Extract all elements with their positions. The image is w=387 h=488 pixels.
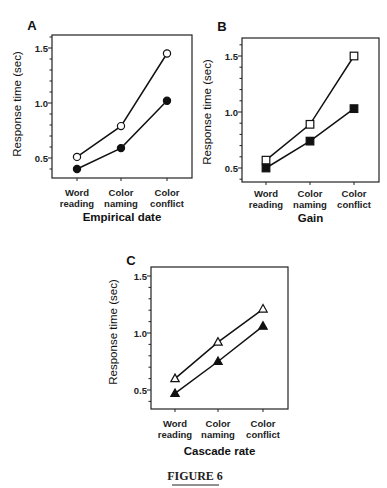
x-tick-label: Word — [254, 188, 278, 199]
figure-6: A0.51.01.5Response time (sec)Wordreading… — [0, 0, 387, 488]
x-tick-label: Color — [206, 418, 231, 429]
x-tick-label: reading — [249, 199, 284, 210]
panel-b: B0.51.01.5Response time (sec)Wordreading… — [201, 19, 379, 224]
data-point-open-triangle — [214, 338, 222, 346]
x-tick-label: naming — [104, 198, 138, 209]
data-point-filled-square — [350, 105, 358, 113]
y-tick-label: 1.5 — [134, 271, 148, 282]
figure-caption: FIGURE 6 — [167, 469, 223, 483]
x-tick-label: Word — [65, 187, 89, 198]
panel-c: C0.51.01.5Response time (sec)Wordreading… — [107, 253, 288, 457]
x-tick-label: Color — [251, 418, 276, 429]
y-axis-label: Response time (sec) — [201, 59, 213, 165]
x-tick-label: Word — [163, 418, 187, 429]
x-tick-label: reading — [158, 429, 193, 440]
data-point-filled-square — [306, 137, 314, 145]
x-tick-label: Color — [342, 188, 367, 199]
data-point-open-square — [350, 52, 358, 60]
x-tick-label: Color — [298, 188, 323, 199]
x-tick-label: Color — [155, 187, 180, 198]
x-tick-label: naming — [293, 199, 327, 210]
x-axis-title: Empirical date — [83, 211, 162, 223]
panel-label: B — [217, 19, 226, 34]
y-tick-label: 0.5 — [225, 163, 239, 174]
y-tick-label: 0.5 — [35, 153, 49, 164]
data-point-open-triangle — [259, 305, 267, 313]
y-axis-label: Response time (sec) — [107, 279, 119, 385]
y-tick-label: 0.5 — [134, 385, 148, 396]
y-axis-label: Response time (sec) — [11, 51, 23, 157]
plot-frame — [151, 267, 288, 409]
panel-label: A — [27, 18, 37, 33]
data-point-filled-triangle — [214, 357, 222, 365]
data-point-filled-circle — [117, 145, 124, 152]
x-tick-label: conflict — [337, 199, 372, 210]
data-point-open-square — [262, 156, 270, 164]
x-tick-label: naming — [201, 429, 235, 440]
x-tick-label: conflict — [150, 198, 185, 209]
data-point-filled-circle — [163, 97, 170, 104]
data-point-filled-triangle — [171, 389, 179, 397]
data-point-open-square — [306, 121, 314, 129]
x-axis-title: Gain — [298, 212, 324, 224]
data-point-open-circle — [117, 123, 124, 130]
panel-a: A0.51.01.5Response time (sec)Wordreading… — [11, 18, 192, 223]
data-point-filled-circle — [73, 165, 80, 172]
y-tick-label: 1.0 — [134, 328, 147, 339]
data-point-filled-square — [262, 164, 270, 172]
series-line-open-circle — [77, 54, 167, 157]
x-tick-label: conflict — [246, 429, 281, 440]
y-tick-label: 1.5 — [225, 51, 239, 62]
x-tick-label: reading — [60, 198, 95, 209]
x-tick-label: Color — [109, 187, 134, 198]
data-point-filled-triangle — [259, 322, 267, 330]
x-axis-title: Cascade rate — [184, 445, 256, 457]
panel-label: C — [126, 253, 136, 268]
y-tick-label: 1.0 — [35, 98, 48, 109]
series-line-filled-circle — [77, 101, 167, 169]
data-point-open-circle — [73, 153, 80, 160]
y-tick-label: 1.5 — [35, 43, 49, 54]
data-point-open-circle — [163, 50, 170, 57]
y-tick-label: 1.0 — [225, 107, 238, 118]
